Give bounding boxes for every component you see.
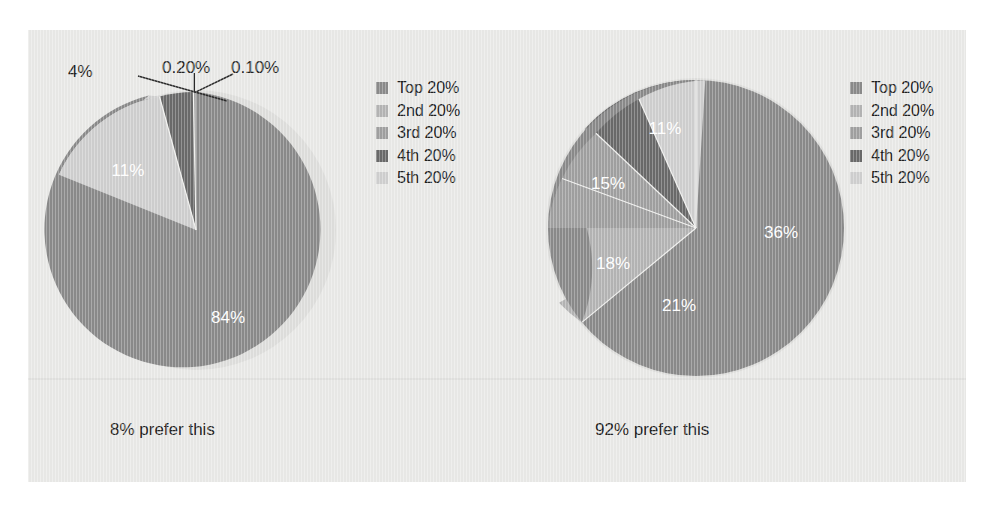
left-label-010: 0.10% <box>231 58 279 77</box>
left-label-84: 84% <box>211 308 245 327</box>
legend-label-top20: Top 20% <box>397 80 459 96</box>
legend-label-4th20: 4th 20% <box>397 148 456 164</box>
left-label-11: 11% <box>112 161 145 180</box>
left-caption: 8% prefer this <box>110 420 215 440</box>
legend-label-2nd20: 2nd 20% <box>397 103 460 119</box>
legend-item-2nd20-right[interactable]: 2nd 20% <box>850 100 934 123</box>
legend-swatch-5th20-right <box>850 172 862 184</box>
right-label-18: 18% <box>596 254 630 273</box>
legend-item-5th20[interactable]: 5th 20% <box>376 167 460 190</box>
right-label-21: 21% <box>662 296 696 315</box>
right-label-36: 36% <box>764 223 798 242</box>
legend-item-3rd20[interactable]: 3rd 20% <box>376 122 460 145</box>
legend-label-4th20-right: 4th 20% <box>871 148 930 164</box>
legend-swatch-3rd20 <box>376 127 388 139</box>
legend-item-3rd20-right[interactable]: 3rd 20% <box>850 122 934 145</box>
legend-swatch-top20 <box>376 82 388 94</box>
legend-label-5th20: 5th 20% <box>397 170 456 186</box>
legend-item-4th20-right[interactable]: 4th 20% <box>850 145 934 168</box>
left-label-4: 4% <box>68 62 93 81</box>
legend-item-4th20[interactable]: 4th 20% <box>376 145 460 168</box>
right-pie-final <box>548 80 844 376</box>
legend-label-2nd20-right: 2nd 20% <box>871 103 934 119</box>
legend-item-2nd20[interactable]: 2nd 20% <box>376 100 460 123</box>
legend-item-top20-right[interactable]: Top 20% <box>850 77 934 100</box>
right-chart-panel: 36% 21% 18% 15% 11% Top 20% 2nd 20% 3rd … <box>498 30 966 482</box>
legend-item-top20[interactable]: Top 20% <box>376 77 460 100</box>
right-caption: 92% prefer this <box>595 420 709 440</box>
left-legend: Top 20% 2nd 20% 3rd 20% 4th 20% 5th 20% <box>376 77 460 190</box>
right-label-11: 11% <box>649 119 682 138</box>
legend-swatch-4th20 <box>376 150 388 162</box>
legend-swatch-4th20-right <box>850 150 862 162</box>
legend-swatch-5th20 <box>376 172 388 184</box>
left-chart-panel: 84% 11% 4% 0.20% 0.10% Top 20% 2nd 20% 3… <box>28 30 498 482</box>
legend-swatch-2nd20-right <box>850 105 862 117</box>
legend-label-3rd20-right: 3rd 20% <box>871 125 931 141</box>
right-label-15: 15% <box>591 174 625 193</box>
left-label-020: 0.20% <box>162 58 210 77</box>
scanned-page-area: 84% 11% 4% 0.20% 0.10% Top 20% 2nd 20% 3… <box>28 30 966 482</box>
legend-swatch-2nd20 <box>376 105 388 117</box>
legend-label-5th20-right: 5th 20% <box>871 170 930 186</box>
legend-swatch-3rd20-right <box>850 127 862 139</box>
legend-swatch-top20-right <box>850 82 862 94</box>
legend-label-3rd20: 3rd 20% <box>397 125 457 141</box>
pie-chart-page: { "page": { "background_color": "#e9e9e7… <box>0 0 986 511</box>
legend-item-5th20-right[interactable]: 5th 20% <box>850 167 934 190</box>
legend-label-top20-right: Top 20% <box>871 80 933 96</box>
right-legend: Top 20% 2nd 20% 3rd 20% 4th 20% 5th 20% <box>850 77 934 190</box>
